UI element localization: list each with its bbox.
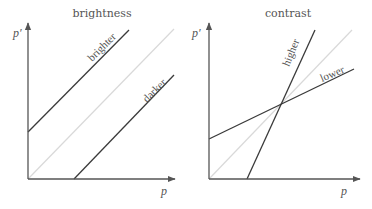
brighter-line [28,30,129,132]
higher-label: higher [280,37,302,68]
diagram-canvas: brightness brighter darker p′ p contrast… [0,0,372,209]
lower-label: lower [318,63,346,84]
darker-label: darker [140,76,169,105]
brightness-panel: brightness brighter darker p′ p [12,7,175,198]
x-axis-label: p [340,184,347,198]
brightness-title: brightness [72,7,132,20]
x-axis-label: p [160,184,167,198]
contrast-panel: contrast higher lower p′ p [191,7,360,198]
y-axis-label: p′ [191,26,201,40]
y-axis-label: p′ [12,26,22,40]
contrast-title: contrast [265,7,312,20]
